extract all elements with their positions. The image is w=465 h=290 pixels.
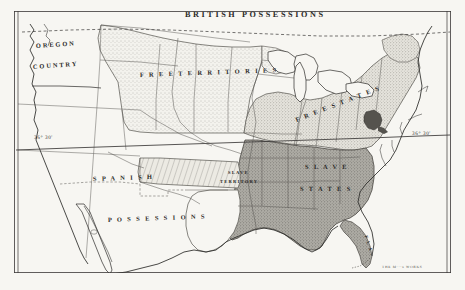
region-slave-territory bbox=[138, 158, 240, 188]
historical-map-figure: BRITISH POSSESSIONSOREGONCOUNTRYF R E E … bbox=[0, 0, 465, 290]
map-canvas bbox=[0, 0, 465, 290]
